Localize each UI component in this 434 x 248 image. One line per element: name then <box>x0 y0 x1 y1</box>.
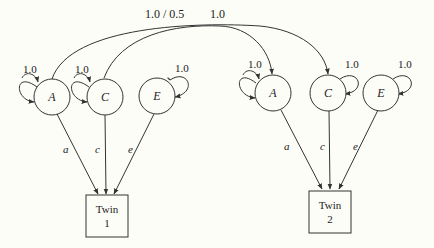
latent-label-E2: E <box>376 86 385 100</box>
twin1-box-line1: Twin <box>96 203 119 215</box>
latent-label-C1: C <box>101 90 110 104</box>
twin2-latent-C: 1.0 C <box>310 58 359 111</box>
path-e-twin1 <box>114 114 154 194</box>
correlation-label-A: 1.0 / 0.5 <box>145 7 184 21</box>
twin2-observed-box: Twin 2 <box>309 191 351 233</box>
twin1-latent-E: 1.0 E <box>139 62 189 114</box>
path-label-a2: a <box>284 140 290 152</box>
correlation-arc-A <box>52 25 328 79</box>
variance-label-E1: 1.0 <box>175 62 189 74</box>
path-e-twin2 <box>339 110 378 189</box>
twin2-box-line1: Twin <box>319 199 342 211</box>
twin2-latent-A: 1.0 A <box>239 58 291 111</box>
latent-label-C2: C <box>324 86 333 100</box>
path-label-a1: a <box>63 143 69 155</box>
variance-label-A2: 1.0 <box>248 58 262 70</box>
ace-twin-diagram: 1.0 / 0.5 1.0 1.0 A 1.0 C 1.0 E <box>0 0 434 248</box>
latent-label-A1: A <box>47 90 56 104</box>
variance-label-E2: 1.0 <box>398 58 412 70</box>
twin1-observed-box: Twin 1 <box>86 195 128 237</box>
variance-label-C1: 1.0 <box>75 63 89 75</box>
path-label-e2: e <box>353 140 358 152</box>
twin1-latent-C: 1.0 C <box>71 63 123 115</box>
path-c-twin2 <box>329 111 330 189</box>
latent-label-E1: E <box>152 89 161 103</box>
twin1-group: 1.0 A 1.0 C 1.0 E a c e Twin <box>19 62 189 237</box>
variance-label-C2: 1.0 <box>345 58 359 70</box>
twin2-latent-E: 1.0 E <box>363 58 412 111</box>
latent-label-A2: A <box>268 86 277 100</box>
path-label-e1: e <box>128 143 133 155</box>
correlation-label-C: 1.0 <box>210 7 225 21</box>
twin2-box-line2: 2 <box>327 213 333 225</box>
twin2-group: 1.0 A 1.0 C 1.0 E a c e Twin 2 <box>239 58 412 233</box>
twin1-latent-A: 1.0 A <box>19 63 70 115</box>
path-c-twin1 <box>105 115 106 194</box>
path-label-c1: c <box>95 143 100 155</box>
twin1-box-line2: 1 <box>104 217 110 229</box>
path-label-c2: c <box>320 140 325 152</box>
variance-label-A1: 1.0 <box>23 63 37 75</box>
